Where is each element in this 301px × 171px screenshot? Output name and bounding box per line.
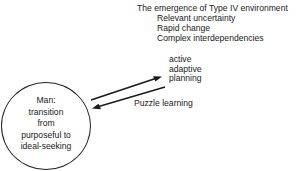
arrow-to-planning-icon [91,76,162,100]
arrows [0,0,301,171]
arrow-to-man-icon [92,87,165,109]
